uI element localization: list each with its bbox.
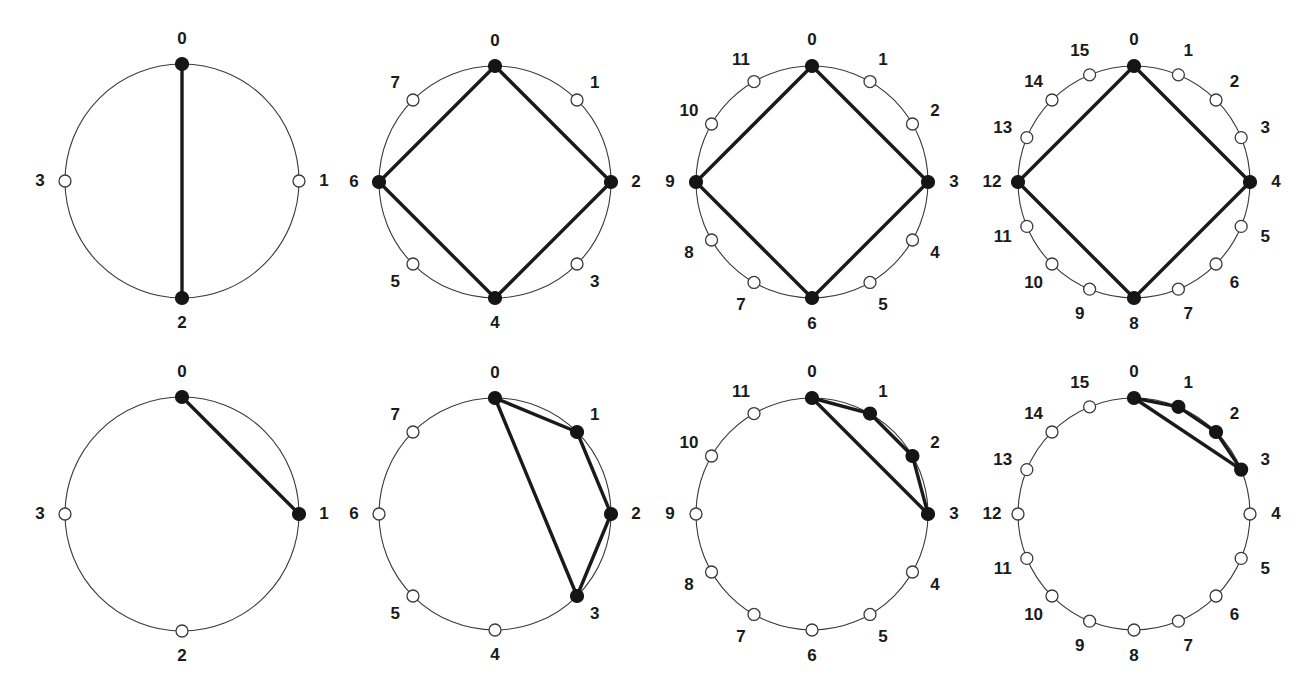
node-label-6: 6 — [807, 314, 816, 333]
node-label-12: 12 — [983, 504, 1002, 523]
node-open-4[interactable] — [489, 624, 501, 636]
node-filled-4[interactable] — [1244, 176, 1257, 189]
node-filled-0[interactable] — [806, 392, 819, 405]
node-open-3[interactable] — [59, 175, 71, 187]
node-group: 0123 — [35, 362, 328, 665]
node-filled-0[interactable] — [176, 58, 189, 71]
node-open-3[interactable] — [571, 258, 583, 270]
node-filled-0[interactable] — [806, 60, 819, 73]
node-open-15[interactable] — [1084, 401, 1096, 413]
node-open-9[interactable] — [690, 508, 702, 520]
node-open-1[interactable] — [293, 175, 305, 187]
node-open-6[interactable] — [1210, 258, 1222, 270]
node-label-0: 0 — [1129, 30, 1138, 49]
graph-panel-bottom-1: 0123 — [18, 350, 346, 678]
node-filled-1[interactable] — [1172, 400, 1185, 413]
node-filled-6[interactable] — [373, 176, 386, 189]
node-label-0: 0 — [177, 362, 186, 381]
node-open-5[interactable] — [1235, 552, 1247, 564]
node-open-5[interactable] — [407, 590, 419, 602]
node-open-5[interactable] — [407, 258, 419, 270]
node-open-10[interactable] — [706, 450, 718, 462]
node-open-7[interactable] — [407, 426, 419, 438]
node-open-7[interactable] — [407, 94, 419, 106]
node-open-6[interactable] — [373, 508, 385, 520]
node-filled-1[interactable] — [864, 407, 877, 420]
node-open-3[interactable] — [1235, 132, 1247, 144]
node-filled-0[interactable] — [489, 60, 502, 73]
node-open-8[interactable] — [706, 566, 718, 578]
node-open-2[interactable] — [1210, 94, 1222, 106]
node-open-7[interactable] — [748, 608, 760, 620]
node-open-10[interactable] — [706, 118, 718, 130]
node-open-14[interactable] — [1046, 94, 1058, 106]
node-open-13[interactable] — [1021, 132, 1033, 144]
node-open-10[interactable] — [1046, 258, 1058, 270]
node-filled-0[interactable] — [489, 392, 502, 405]
node-open-11[interactable] — [748, 408, 760, 420]
node-open-3[interactable] — [59, 508, 71, 520]
node-open-4[interactable] — [906, 566, 918, 578]
node-label-9: 9 — [1075, 636, 1084, 655]
node-open-7[interactable] — [748, 276, 760, 288]
node-open-11[interactable] — [748, 76, 760, 88]
node-open-1[interactable] — [864, 76, 876, 88]
node-open-14[interactable] — [1046, 426, 1058, 438]
node-filled-2[interactable] — [1210, 425, 1223, 438]
node-open-6[interactable] — [1210, 590, 1222, 602]
node-filled-6[interactable] — [806, 292, 819, 305]
node-open-12[interactable] — [1012, 508, 1024, 520]
node-filled-0[interactable] — [176, 391, 189, 404]
node-filled-2[interactable] — [605, 508, 618, 521]
node-open-9[interactable] — [1084, 615, 1096, 627]
node-open-1[interactable] — [571, 94, 583, 106]
node-open-11[interactable] — [1021, 552, 1033, 564]
node-label-7: 7 — [1184, 636, 1193, 655]
graph-edge-1-2 — [870, 414, 912, 456]
node-open-2[interactable] — [906, 118, 918, 130]
node-label-1: 1 — [590, 405, 599, 424]
node-filled-3[interactable] — [571, 590, 584, 603]
node-filled-0[interactable] — [1128, 60, 1141, 73]
node-label-11: 11 — [994, 559, 1012, 578]
node-open-15[interactable] — [1084, 69, 1096, 81]
node-label-4: 4 — [1271, 172, 1281, 191]
node-label-3: 3 — [590, 272, 599, 291]
edge-group — [495, 398, 611, 596]
node-open-1[interactable] — [1172, 69, 1184, 81]
node-label-5: 5 — [391, 272, 400, 291]
node-filled-3[interactable] — [1235, 463, 1248, 476]
node-label-2: 2 — [631, 172, 640, 191]
node-filled-3[interactable] — [922, 508, 935, 521]
node-open-8[interactable] — [1128, 624, 1140, 636]
node-open-5[interactable] — [864, 276, 876, 288]
node-open-13[interactable] — [1021, 464, 1033, 476]
node-filled-1[interactable] — [293, 508, 306, 521]
node-label-4: 4 — [490, 645, 500, 664]
node-open-7[interactable] — [1172, 615, 1184, 627]
node-open-5[interactable] — [864, 608, 876, 620]
node-open-5[interactable] — [1235, 220, 1247, 232]
node-filled-9[interactable] — [690, 176, 703, 189]
node-filled-4[interactable] — [489, 292, 502, 305]
node-label-6: 6 — [349, 504, 358, 523]
node-open-6[interactable] — [806, 624, 818, 636]
node-open-10[interactable] — [1046, 590, 1058, 602]
node-filled-12[interactable] — [1012, 176, 1025, 189]
node-open-11[interactable] — [1021, 220, 1033, 232]
node-filled-3[interactable] — [922, 176, 935, 189]
node-filled-0[interactable] — [1128, 392, 1141, 405]
node-filled-2[interactable] — [906, 450, 919, 463]
node-open-4[interactable] — [906, 234, 918, 246]
figure-root: 0123012345670123456789101101234567891011… — [0, 0, 1312, 700]
node-open-7[interactable] — [1172, 283, 1184, 295]
node-open-4[interactable] — [1244, 508, 1256, 520]
node-filled-8[interactable] — [1128, 292, 1141, 305]
rim-circle — [696, 66, 928, 298]
node-open-2[interactable] — [176, 625, 188, 637]
node-open-9[interactable] — [1084, 283, 1096, 295]
node-open-8[interactable] — [706, 234, 718, 246]
node-filled-2[interactable] — [605, 176, 618, 189]
node-filled-1[interactable] — [571, 425, 584, 438]
node-filled-2[interactable] — [176, 292, 189, 305]
